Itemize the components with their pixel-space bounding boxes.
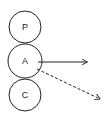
node-a-label: A [22,56,28,66]
node-p-label: P [22,22,28,32]
node-a: A [8,44,42,78]
dashed-arrow [37,69,100,99]
node-p: P [9,11,41,43]
node-c: C [9,79,41,111]
diagram-canvas: P A C [0,0,104,116]
node-c-label: C [22,90,29,100]
